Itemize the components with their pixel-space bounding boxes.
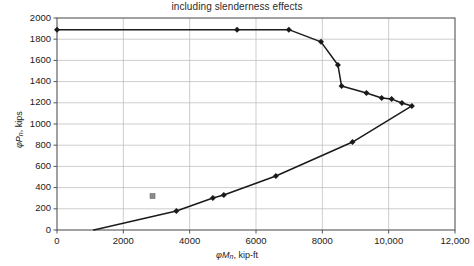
axis-ticks — [54, 18, 456, 234]
data-point — [399, 100, 405, 106]
data-point — [221, 192, 227, 198]
x-tick-label: 6000 — [226, 235, 286, 246]
y-tick-label: 1600 — [17, 54, 51, 65]
grid-lines — [57, 18, 455, 230]
data-point — [389, 96, 395, 102]
data-point — [363, 90, 369, 96]
y-tick-label: 0 — [17, 224, 51, 235]
x-axis-title: φMn, kip-ft — [0, 250, 474, 260]
stray-marker — [150, 194, 155, 199]
y-tick-label: 1800 — [17, 33, 51, 44]
x-tick-label: 2000 — [93, 235, 153, 246]
y-tick-label: 200 — [17, 202, 51, 213]
chart-container: including slenderness effects φPn, kips … — [0, 0, 474, 266]
x-tick-label: 0 — [27, 235, 87, 246]
plot-area — [0, 0, 474, 266]
data-point — [339, 83, 345, 89]
data-point — [234, 27, 240, 33]
data-markers — [54, 27, 415, 214]
y-tick-label: 1400 — [17, 75, 51, 86]
data-point — [54, 27, 60, 33]
x-tick-label: 8000 — [292, 235, 352, 246]
x-tick-label: 4000 — [160, 235, 220, 246]
x-tick-label: 12,000 — [425, 235, 474, 246]
data-point — [210, 195, 216, 201]
y-tick-label: 1000 — [17, 118, 51, 129]
y-tick-label: 2000 — [17, 12, 51, 23]
y-tick-label: 600 — [17, 160, 51, 171]
data-point — [379, 95, 385, 101]
data-point — [286, 27, 292, 33]
y-tick-label: 400 — [17, 181, 51, 192]
data-series-line — [57, 30, 412, 230]
y-tick-label: 1200 — [17, 96, 51, 107]
data-point — [273, 173, 279, 179]
y-tick-label: 800 — [17, 139, 51, 150]
x-tick-label: 10,000 — [359, 235, 419, 246]
